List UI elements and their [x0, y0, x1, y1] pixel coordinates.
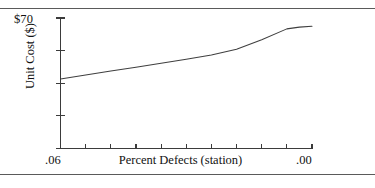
unit-cost-line [61, 26, 313, 79]
chart-figure: $70 Unit Cost ($) Percent Defects (stati… [0, 0, 375, 188]
axes-group [60, 18, 312, 149]
x-tick-label-left: .06 [45, 153, 61, 168]
y-axis-title-wrapper: Unit Cost ($) [20, 10, 38, 102]
data-series-group [61, 26, 313, 79]
x-axis-ticks [61, 144, 313, 149]
y-axis-title: Unit Cost ($) [23, 23, 37, 89]
x-axis-title: Percent Defects (station) [119, 153, 243, 168]
x-tick-label-right: .00 [296, 153, 312, 168]
